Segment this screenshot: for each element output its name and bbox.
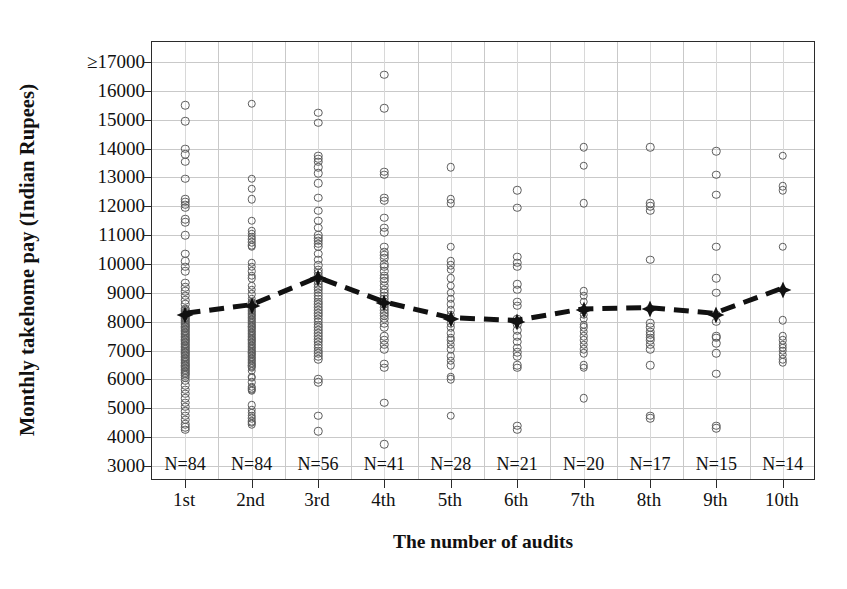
mean-marker — [708, 306, 725, 323]
mean-marker — [575, 302, 592, 319]
data-point — [513, 186, 522, 195]
data-point — [712, 190, 721, 199]
data-point — [513, 302, 522, 311]
data-point — [712, 170, 721, 179]
data-point — [447, 266, 456, 275]
sample-size-label: N=14 — [762, 454, 803, 475]
y-tick-mark — [143, 62, 152, 63]
data-point — [181, 203, 190, 212]
data-point — [646, 361, 655, 370]
data-point — [712, 339, 721, 348]
data-point — [380, 214, 389, 223]
data-point — [712, 424, 721, 433]
x-axis-tick-labels: 1st2nd3rd4th5th6th7th8th9th10th — [151, 489, 815, 519]
data-point — [380, 196, 389, 205]
x-tick-mark — [451, 479, 452, 488]
sample-size-label: N=56 — [297, 454, 338, 475]
data-point — [712, 369, 721, 378]
x-gridline — [617, 42, 618, 479]
x-tick-mark — [384, 479, 385, 488]
y-tick-mark — [143, 91, 152, 92]
data-point — [447, 361, 456, 370]
data-point — [712, 349, 721, 358]
data-point — [779, 358, 788, 367]
x-tick-mark — [716, 479, 717, 488]
data-point — [646, 255, 655, 264]
x-tick-mark — [318, 479, 319, 488]
mean-marker — [442, 310, 459, 327]
data-point — [247, 216, 256, 225]
data-point — [314, 179, 323, 188]
y-tick-label: 16000 — [98, 80, 146, 99]
x-tick-mark — [783, 479, 784, 488]
data-point — [181, 157, 190, 166]
y-tick-label: 15000 — [98, 109, 146, 128]
y-tick-label: 9000 — [107, 282, 145, 301]
data-point — [447, 411, 456, 420]
data-point — [646, 414, 655, 423]
x-tick-mark — [252, 479, 253, 488]
data-point — [181, 231, 190, 240]
sample-size-label: N=20 — [563, 454, 604, 475]
plot-inner: N=84N=84N=56N=41N=28N=21N=20N=17N=15N=14 — [152, 42, 814, 479]
data-point — [447, 163, 456, 172]
sample-size-label: N=17 — [629, 454, 670, 475]
data-point — [247, 242, 256, 251]
data-point — [181, 117, 190, 126]
x-gridline — [683, 42, 684, 479]
data-point — [513, 286, 522, 295]
data-point — [513, 352, 522, 361]
x-tick-mark — [650, 479, 651, 488]
x-tick-label: 10th — [765, 489, 799, 511]
x-axis-title: The number of audits — [151, 531, 815, 553]
data-point — [447, 199, 456, 208]
data-point — [181, 426, 190, 435]
data-point — [712, 147, 721, 156]
x-tick-mark — [185, 479, 186, 488]
y-tick-label: 7000 — [107, 340, 145, 359]
data-point — [314, 206, 323, 215]
x-tick-label: 8th — [637, 489, 661, 511]
data-point — [314, 378, 323, 387]
y-tick-label: 14000 — [98, 138, 146, 157]
data-point — [646, 206, 655, 215]
mean-marker — [243, 297, 260, 314]
data-point — [380, 364, 389, 373]
data-point — [247, 195, 256, 204]
x-gridline — [351, 42, 352, 479]
data-point — [181, 267, 190, 276]
data-point — [513, 203, 522, 212]
y-tick-mark — [143, 149, 152, 150]
data-point — [314, 169, 323, 178]
x-tick-label: 4th — [371, 489, 395, 511]
y-tick-mark — [143, 408, 152, 409]
x-tick-mark — [517, 479, 518, 488]
chart-figure: Monthly takehome pay (Indian Rupees) ≥17… — [0, 0, 847, 589]
data-point — [380, 104, 389, 113]
data-point — [380, 71, 389, 80]
x-gridline — [285, 42, 286, 479]
x-tick-mark — [584, 479, 585, 488]
data-point — [181, 218, 190, 227]
x-gridline — [418, 42, 419, 479]
data-point — [380, 228, 389, 237]
sample-size-label: N=28 — [430, 454, 471, 475]
data-point — [380, 345, 389, 354]
data-point — [247, 185, 256, 194]
data-point — [247, 387, 256, 396]
y-tick-mark — [143, 437, 152, 438]
data-point — [181, 175, 190, 184]
y-tick-label: 5000 — [107, 398, 145, 417]
data-point — [646, 345, 655, 354]
y-tick-label: ≥17000 — [87, 52, 145, 71]
x-gridline — [218, 42, 219, 479]
y-tick-label: 8000 — [107, 311, 145, 330]
data-point — [314, 427, 323, 436]
y-tick-mark — [143, 235, 152, 236]
data-point — [513, 263, 522, 272]
y-tick-label: 12000 — [98, 196, 146, 215]
data-point — [314, 118, 323, 127]
y-axis-tick-labels: ≥170001600015000140001300012000110001000… — [56, 41, 145, 481]
category-center-line — [783, 42, 784, 479]
y-tick-mark — [143, 120, 152, 121]
